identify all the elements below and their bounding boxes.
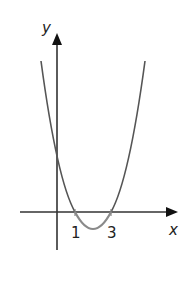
- x-axis-arrow-icon: [166, 207, 178, 217]
- y-axis-arrow-icon: [52, 33, 62, 45]
- x-tick-label-1: 1: [71, 226, 81, 241]
- graph-canvas: [0, 0, 187, 294]
- x-axis-label: x: [169, 223, 178, 238]
- x-tick-label-3: 3: [107, 226, 117, 241]
- y-axis-label: y: [42, 21, 51, 36]
